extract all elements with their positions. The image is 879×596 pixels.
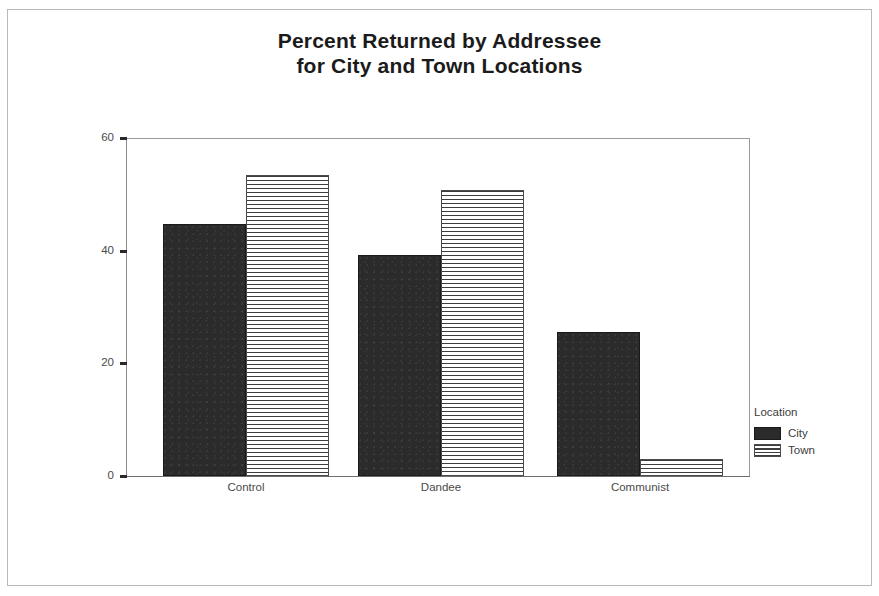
y-axis-label: 20	[74, 357, 114, 368]
chart-title-line-2: for City and Town Locations	[0, 53, 879, 78]
y-axis-label: 0	[74, 470, 114, 481]
bar-control-town	[246, 175, 329, 476]
legend-title: Location	[754, 405, 864, 419]
bar-communist-city	[557, 332, 640, 476]
y-axis-tick	[120, 250, 127, 253]
chart-title: Percent Returned by Addressee for City a…	[0, 28, 879, 78]
y-axis-tick	[120, 475, 127, 478]
bar-communist-town	[640, 459, 723, 476]
chart-title-line-1: Percent Returned by Addressee	[0, 28, 879, 53]
y-axis-label: 40	[74, 245, 114, 256]
legend-item-city: City	[754, 425, 864, 442]
legend-items: CityTown	[754, 425, 864, 459]
x-axis-line	[126, 476, 750, 477]
chart-page: Percent Returned by Addressee for City a…	[0, 0, 879, 596]
x-axis-label-control: Control	[186, 481, 306, 494]
y-axis-label: 60	[74, 132, 114, 143]
y-axis-line	[126, 138, 127, 477]
bar-dandee-city	[358, 255, 441, 476]
bar-dandee-town	[441, 190, 524, 476]
bar-control-city	[163, 224, 246, 476]
chart-legend: Location CityTown	[754, 405, 864, 459]
y-axis-tick	[120, 362, 127, 365]
legend-swatch-city	[754, 427, 781, 440]
legend-item-town: Town	[754, 442, 864, 459]
legend-swatch-town	[754, 444, 781, 457]
legend-label-city: City	[788, 427, 808, 440]
x-axis-label-communist: Communist	[580, 481, 700, 494]
legend-label-town: Town	[788, 444, 815, 457]
x-axis-label-dandee: Dandee	[381, 481, 501, 494]
y-axis-tick	[120, 137, 127, 140]
